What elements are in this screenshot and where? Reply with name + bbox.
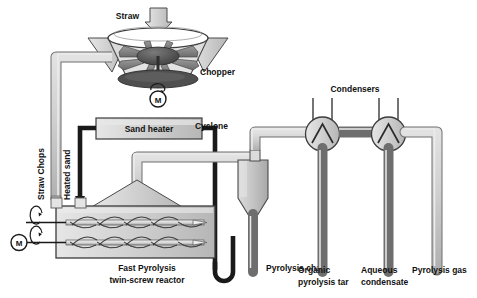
reactor-label-line1: Fast Pyrolysis	[118, 263, 176, 273]
pyrolysis-gas-label: Pyrolysis gas	[412, 265, 467, 275]
straw-chops-label: Straw Chops	[36, 148, 46, 200]
cyclone-label: Cyclone	[195, 121, 228, 131]
reactor-motor-label: M	[16, 239, 23, 248]
cyclone-vortex-finder	[250, 150, 260, 161]
sand-heater-label: Sand heater	[125, 124, 174, 134]
sand-heater-unit: Sand heater	[96, 118, 202, 139]
chopper-motor-label: M	[155, 96, 162, 105]
condensers-label: Condensers	[330, 84, 379, 94]
aqueous-label-line2: condensate	[361, 277, 409, 287]
process-flow-diagram: Straw M	[0, 0, 477, 298]
chopper-disc-highlight	[125, 72, 185, 82]
reactor-inlet-stub-chops	[51, 198, 62, 208]
heated-sand-label: Heated sand	[62, 149, 72, 200]
reactor-body	[56, 206, 215, 258]
reactor-body-highlight	[58, 208, 213, 213]
cyclone-highlight	[240, 161, 247, 197]
organic-tar-label-line2: pyrolysis tar	[298, 277, 349, 287]
reactor-label-line2: twin-screw reactor	[109, 275, 185, 285]
straw-label: Straw	[116, 11, 140, 21]
reactor-inlet-stub-sand	[75, 198, 86, 208]
organic-tar-label-line1: Organic	[298, 265, 330, 275]
aqueous-label-line1: Aqueous	[361, 265, 398, 275]
chopper-label: Chopper	[200, 67, 236, 77]
